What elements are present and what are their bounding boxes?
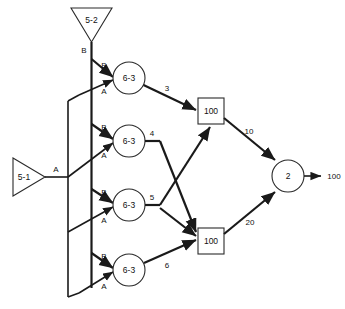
- gate-2-port-a-label: A: [101, 151, 107, 160]
- a-bus-stub-top: [68, 95, 79, 101]
- diagram-canvas: 5-2 B 5-1 A B A 6-3: [0, 0, 345, 309]
- output-node-label: 2: [286, 171, 291, 181]
- gate-2-label: 6-3: [123, 136, 136, 146]
- edge-gate3-to-acc-bottom: [160, 208, 196, 236]
- edge-acc-top-weight-label: 10: [245, 127, 254, 136]
- gate-1-port-b-label: B: [101, 61, 106, 70]
- gate-4-port-b-label: B: [101, 252, 106, 261]
- gate-3-port-b-label: B: [101, 188, 106, 197]
- final-output-value-label: 100: [327, 172, 341, 181]
- edge-gate2-to-acc-bottom: [160, 141, 196, 232]
- gate-1-label: 6-3: [123, 73, 136, 83]
- acc-top-label: 100: [204, 106, 218, 116]
- gate-3-label: 6-3: [123, 200, 136, 210]
- source-top-label: 5-2: [85, 15, 98, 25]
- gate-node-1[interactable]: 6-3: [113, 62, 145, 94]
- edge-gate1-weight-label: 3: [165, 84, 170, 93]
- a-bus-stub-bottom: [68, 293, 79, 297]
- output-node[interactable]: 2: [272, 160, 304, 192]
- left-bus-port-label: A: [53, 165, 59, 174]
- network-diagram: 5-2 B 5-1 A B A 6-3: [0, 0, 345, 309]
- gate-1-input-a-wire: [79, 80, 113, 95]
- accumulator-node-bottom[interactable]: 100: [198, 228, 224, 254]
- gate-4-label: 6-3: [123, 265, 136, 275]
- gate-4-port-a-label: A: [101, 282, 107, 291]
- acc-bottom-label: 100: [204, 236, 218, 246]
- triangle-down-shape: [71, 8, 112, 42]
- gate-4-input-a-wire: [79, 272, 113, 293]
- gate-node-4[interactable]: 6-3: [113, 254, 145, 286]
- edge-gate2-weight-label: 4: [150, 129, 155, 138]
- source-left-label: 5-1: [18, 172, 31, 182]
- source-node-top[interactable]: 5-2: [71, 8, 112, 42]
- edge-acc-bottom-to-output: [224, 192, 275, 234]
- edge-gate4-to-acc-bottom: [144, 240, 196, 263]
- edge-gate1-to-acc-top: [144, 85, 197, 110]
- accumulator-node-top[interactable]: 100: [198, 98, 224, 124]
- gate-1-port-a-label: A: [101, 87, 107, 96]
- edge-gate4-weight-label: 6: [165, 261, 170, 270]
- source-node-left[interactable]: 5-1: [13, 158, 45, 196]
- edge-acc-bottom-weight-label: 20: [246, 218, 255, 227]
- edge-gate3-to-acc-top: [160, 127, 210, 205]
- gate-3-port-a-label: A: [101, 216, 107, 225]
- gate-node-3[interactable]: 6-3: [113, 189, 145, 221]
- gate-node-2[interactable]: 6-3: [113, 125, 145, 157]
- top-bus-port-label: B: [81, 46, 86, 55]
- edge-acc-top-to-output: [224, 118, 275, 160]
- gate-2-port-b-label: B: [101, 123, 106, 132]
- edge-gate3-weight-label: 5: [150, 193, 155, 202]
